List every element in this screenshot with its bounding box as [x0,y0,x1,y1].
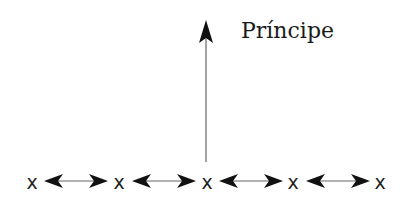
double-arrow-icon [306,174,370,188]
node-x2: x [112,170,126,194]
node-x1: x [25,170,39,194]
double-arrow-icon [132,174,196,188]
node-x3: x [200,170,214,194]
node-x4: x [286,170,300,194]
principe-label: Príncipe [241,18,334,43]
double-arrow-icon [219,174,283,188]
diagram-canvas: Príncipe x x x x x [0,0,411,207]
up-arrow-icon [199,20,213,162]
double-arrow-icon [44,174,108,188]
node-x5: x [373,170,387,194]
